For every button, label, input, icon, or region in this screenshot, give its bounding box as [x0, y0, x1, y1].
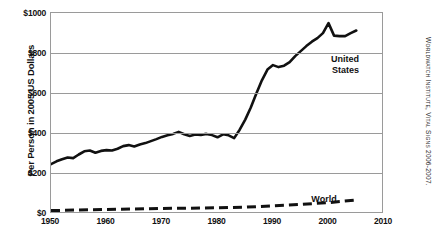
y-tick-label-1000: $1000: [0, 8, 46, 18]
source-credit: Worldwatch Institute, Vital Signs 2006-2…: [425, 2, 432, 222]
y-tick-label-200: $200: [0, 168, 46, 178]
x-tick-label-1950: 1950: [28, 216, 72, 226]
x-tick-label-2010: 2010: [361, 216, 405, 226]
x-tick-label-1970: 1970: [139, 216, 183, 226]
annotation-world: World: [294, 194, 354, 204]
y-tick-label-800: $800: [0, 48, 46, 58]
y-tick-label-400: $400: [0, 128, 46, 138]
gridline-400: [51, 133, 382, 134]
x-tick-label-1980: 1980: [195, 216, 239, 226]
series-canvas: [51, 13, 384, 214]
gridline-600: [51, 93, 382, 94]
y-axis-title: Per Person in 2005 US Dollars: [25, 11, 36, 211]
plot-area: UnitedStates World: [50, 12, 383, 213]
x-tick-label-1990: 1990: [250, 216, 294, 226]
x-tick-label-1960: 1960: [84, 216, 128, 226]
cropped-caption-sliver: [2, 238, 182, 244]
annotation-us-line2: States: [332, 65, 359, 75]
annotation-us-line1: United: [331, 54, 359, 64]
y-tick-label-600: $600: [0, 88, 46, 98]
x-tick-label-2000: 2000: [306, 216, 350, 226]
gridline-200: [51, 173, 382, 174]
annotation-united-states: UnitedStates: [299, 54, 359, 75]
